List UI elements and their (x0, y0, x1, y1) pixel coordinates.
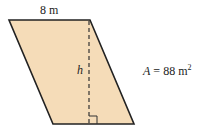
area-variable: A (143, 64, 150, 78)
area-exponent: 2 (187, 63, 191, 72)
area-equals: = (153, 64, 160, 78)
area-label: A = 88 m2 (143, 63, 191, 79)
top-side-label: 8 m (40, 3, 58, 18)
area-value: 88 (163, 64, 175, 78)
height-label: h (77, 63, 83, 78)
parallelogram (9, 20, 134, 124)
